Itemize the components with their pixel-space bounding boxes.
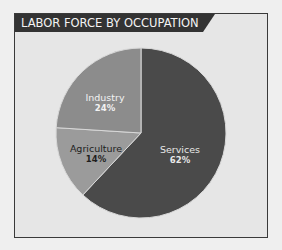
slice-label-agriculture: Agriculture 14% — [70, 143, 122, 165]
pie-slice-industry — [56, 48, 141, 133]
slice-label-services: Services 62% — [160, 144, 200, 166]
pie-slices — [56, 48, 226, 218]
slice-percent: 24% — [85, 103, 124, 114]
slice-label-industry: Industry 24% — [85, 92, 124, 114]
slice-percent: 14% — [70, 154, 122, 165]
slice-name: Industry — [85, 92, 124, 103]
pie-chart — [0, 0, 282, 250]
slice-percent: 62% — [160, 155, 200, 166]
slice-name: Agriculture — [70, 143, 122, 154]
slice-name: Services — [160, 144, 200, 155]
